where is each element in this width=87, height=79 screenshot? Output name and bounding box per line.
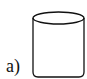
- cylinder-shape: [0, 0, 87, 79]
